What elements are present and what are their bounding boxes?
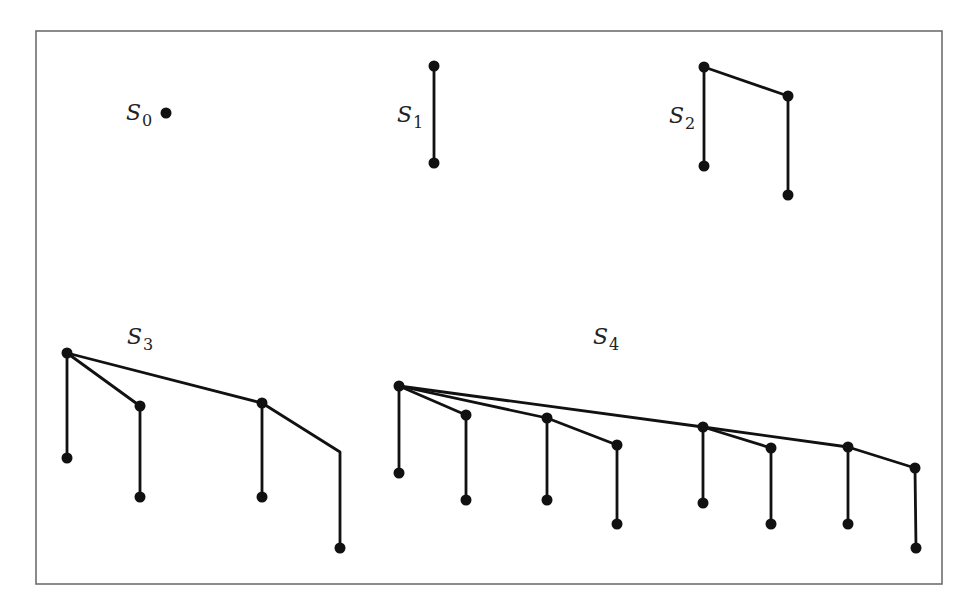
label-s0: S0 <box>126 102 152 124</box>
tree-node <box>335 543 346 554</box>
tree-node <box>910 463 921 474</box>
label-s1-base: S <box>397 102 412 127</box>
tree-node <box>542 495 553 506</box>
tree-node <box>62 348 73 359</box>
tree-node <box>394 381 405 392</box>
label-s2-base: S <box>669 103 684 128</box>
tree-s1 <box>429 61 440 169</box>
tree-edge <box>262 403 340 548</box>
tree-node <box>461 495 472 506</box>
label-s0-base: S <box>126 100 141 125</box>
label-s4: S4 <box>593 326 619 348</box>
tree-node <box>783 91 794 102</box>
tree-edge <box>703 427 771 448</box>
tree-node <box>911 543 922 554</box>
label-s3-base: S <box>127 324 142 349</box>
tree-node <box>766 519 777 530</box>
tree-node <box>612 519 623 530</box>
tree-node <box>699 62 710 73</box>
tree-node <box>257 398 268 409</box>
label-s4-subscript: 4 <box>609 335 619 354</box>
label-s3: S3 <box>127 326 153 348</box>
tree-node <box>62 453 73 464</box>
tree-edge <box>703 427 848 447</box>
tree-edge <box>915 468 916 548</box>
tree-node <box>612 440 623 451</box>
tree-node <box>429 158 440 169</box>
tree-s4 <box>394 381 922 554</box>
tree-node <box>135 492 146 503</box>
tree-node <box>766 443 777 454</box>
label-s3-subscript: 3 <box>143 335 153 354</box>
binomial-trees-diagram <box>0 0 976 614</box>
tree-node <box>783 190 794 201</box>
tree-node <box>161 108 172 119</box>
label-s1: S1 <box>397 104 423 126</box>
label-s0-subscript: 0 <box>142 111 152 130</box>
tree-s3 <box>62 348 346 554</box>
tree-node <box>699 161 710 172</box>
tree-edge <box>67 353 262 403</box>
tree-node <box>135 401 146 412</box>
tree-edge <box>547 418 617 445</box>
tree-node <box>843 519 854 530</box>
tree-node <box>698 422 709 433</box>
tree-node <box>542 413 553 424</box>
tree-s2 <box>699 62 794 201</box>
tree-node <box>698 498 709 509</box>
label-s1-subscript: 1 <box>413 113 423 132</box>
tree-node <box>394 468 405 479</box>
tree-s0 <box>161 108 172 119</box>
tree-edge <box>848 447 915 468</box>
tree-node <box>843 442 854 453</box>
tree-node <box>461 410 472 421</box>
tree-node <box>429 61 440 72</box>
tree-edge <box>704 67 788 96</box>
figure-frame <box>36 31 942 584</box>
tree-node <box>257 492 268 503</box>
label-s4-base: S <box>593 324 608 349</box>
label-s2: S2 <box>669 105 695 127</box>
label-s2-subscript: 2 <box>685 114 695 133</box>
